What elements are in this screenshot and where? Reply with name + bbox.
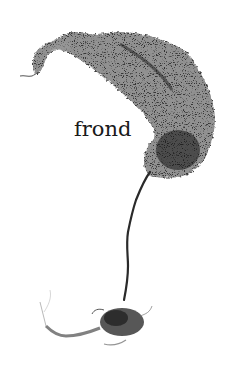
seaweed-illustration xyxy=(0,0,236,379)
specimen-image: frond xyxy=(0,0,236,379)
stipe xyxy=(124,172,150,300)
frond-label: frond xyxy=(74,119,131,140)
holdfast xyxy=(40,290,152,345)
